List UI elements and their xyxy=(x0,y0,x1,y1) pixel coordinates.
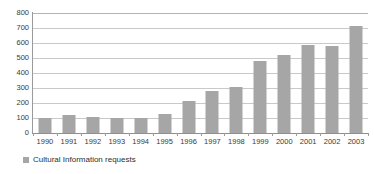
x-axis-tick xyxy=(248,133,249,136)
bar-slot xyxy=(129,13,153,133)
x-axis-tick xyxy=(177,133,178,136)
bar-chart: 8007006005004003002001000 19901991199219… xyxy=(0,0,374,174)
x-axis-tick xyxy=(296,133,297,136)
bar-slot xyxy=(296,13,320,133)
bar-slot xyxy=(201,13,225,133)
legend-swatch-icon xyxy=(23,157,29,163)
x-axis-tick xyxy=(320,133,321,136)
x-axis-labels: 1990199119921993199419951996199719981999… xyxy=(33,137,368,149)
y-axis-label-600: 600 xyxy=(0,39,29,47)
bar-slot xyxy=(177,13,201,133)
y-axis-label-800: 800 xyxy=(0,9,29,17)
legend: Cultural Information requests xyxy=(23,155,136,164)
x-axis-label-2003: 2003 xyxy=(341,137,371,146)
bar-2003 xyxy=(350,26,363,133)
bar-1991 xyxy=(62,115,75,133)
bar-2002 xyxy=(326,46,339,133)
x-axis-tick xyxy=(201,133,202,136)
y-axis-label-300: 300 xyxy=(0,84,29,92)
bar-slot xyxy=(57,13,81,133)
bar-slot xyxy=(248,13,272,133)
y-axis-label-200: 200 xyxy=(0,99,29,107)
bar-2000 xyxy=(278,55,291,133)
x-axis-tick xyxy=(33,133,34,136)
x-axis-tick xyxy=(272,133,273,136)
bar-1995 xyxy=(158,114,171,134)
x-axis-tick xyxy=(368,133,369,136)
bar-2001 xyxy=(302,45,315,134)
x-axis-tick xyxy=(81,133,82,136)
bar-slot xyxy=(224,13,248,133)
x-axis-tick xyxy=(129,133,130,136)
bar-1999 xyxy=(254,61,267,133)
x-axis-tick xyxy=(344,133,345,136)
bar-slot xyxy=(81,13,105,133)
legend-label: Cultural Information requests xyxy=(33,155,136,164)
bar-slot xyxy=(344,13,368,133)
y-axis-label-400: 400 xyxy=(0,69,29,77)
y-axis-label-100: 100 xyxy=(0,114,29,122)
bar-series-cultural-information-requests xyxy=(33,13,368,133)
bar-1993 xyxy=(110,118,123,133)
bar-slot xyxy=(272,13,296,133)
x-axis-tick xyxy=(224,133,225,136)
y-axis-label-700: 700 xyxy=(0,24,29,32)
bar-slot xyxy=(105,13,129,133)
x-axis-tick xyxy=(105,133,106,136)
y-axis-labels: 8007006005004003002001000 xyxy=(0,0,29,174)
bar-1997 xyxy=(206,91,219,133)
y-axis-label-0: 0 xyxy=(0,129,29,137)
bar-slot xyxy=(153,13,177,133)
bar-1994 xyxy=(134,118,147,133)
x-axis-tick xyxy=(153,133,154,136)
y-axis-label-500: 500 xyxy=(0,54,29,62)
bar-1996 xyxy=(182,101,195,133)
bar-slot xyxy=(33,13,57,133)
bar-1992 xyxy=(86,117,99,133)
bar-1990 xyxy=(38,118,51,133)
bar-slot xyxy=(320,13,344,133)
bar-1998 xyxy=(230,87,243,134)
x-axis-tick xyxy=(57,133,58,136)
